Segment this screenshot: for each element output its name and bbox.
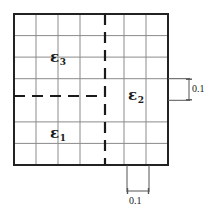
region-symbol-epsilon-2: ε	[128, 86, 137, 104]
region-subscript-epsilon-1: 1	[60, 133, 66, 143]
region-subscript-epsilon-3: 3	[60, 57, 66, 67]
dimension-label-bottom: 0.1	[129, 196, 142, 206]
region-label-epsilon-3: ε3	[50, 50, 66, 67]
grid-outer-border	[14, 14, 168, 165]
grid-diagram	[0, 0, 217, 216]
dimension-callout-right	[168, 79, 192, 101]
dimension-label-right: 0.1	[192, 84, 205, 94]
region-label-epsilon-2: ε2	[128, 88, 144, 105]
figure-container: ε3 ε1 ε2 0.1 0.1	[0, 0, 217, 216]
grid-interior-lines	[14, 14, 168, 165]
region-subscript-epsilon-2: 2	[138, 95, 144, 105]
region-symbol-epsilon-3: ε	[50, 48, 59, 66]
region-label-epsilon-1: ε1	[50, 126, 66, 143]
dimension-callout-bottom	[127, 165, 149, 194]
region-symbol-epsilon-1: ε	[50, 124, 59, 142]
